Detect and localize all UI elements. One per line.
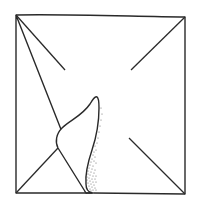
crease-bottom-left <box>16 148 58 193</box>
crease-bottom-right <box>129 138 185 194</box>
crease-top-right <box>131 17 185 70</box>
crease-top-left <box>16 15 65 70</box>
fold-diagram <box>0 0 198 220</box>
folded-flap <box>56 97 99 193</box>
fold-diagram-svg <box>0 0 198 220</box>
